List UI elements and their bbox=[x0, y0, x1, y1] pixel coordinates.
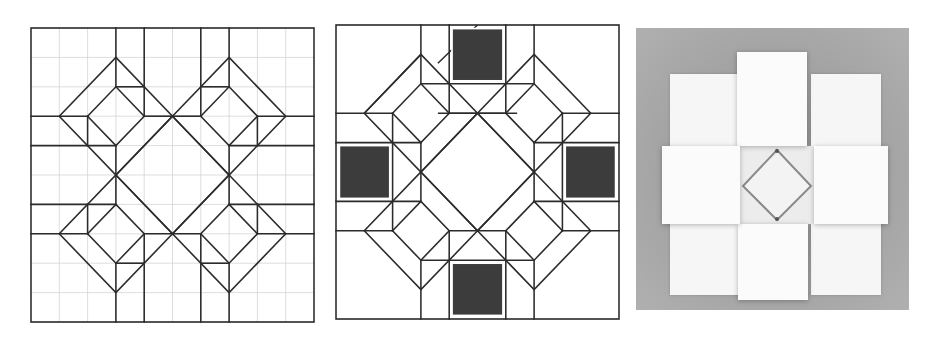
flap-bottom bbox=[738, 224, 808, 300]
flap-left bbox=[662, 146, 740, 224]
flap-bottom-right bbox=[811, 223, 881, 295]
flap-top-right bbox=[811, 74, 881, 146]
crease-pattern-shaded-panel bbox=[336, 25, 619, 319]
flap-top bbox=[737, 52, 807, 146]
shaded-square-right bbox=[565, 146, 615, 199]
center-diamond bbox=[739, 146, 815, 224]
crease-pattern-grid-svg bbox=[31, 28, 314, 322]
flap-bottom-left bbox=[670, 223, 740, 295]
shaded-square-bottom bbox=[452, 263, 503, 315]
shaded-square-left bbox=[339, 146, 389, 199]
reference-grid bbox=[31, 28, 314, 322]
shaded-squares bbox=[339, 29, 615, 316]
crease-pattern-shaded-svg bbox=[336, 25, 619, 319]
crease-pattern-grid-panel bbox=[31, 28, 314, 322]
flap-right bbox=[814, 146, 888, 224]
flap-top-left bbox=[670, 74, 740, 146]
shaded-square-top bbox=[452, 29, 503, 81]
folded-model-photo bbox=[636, 28, 909, 310]
